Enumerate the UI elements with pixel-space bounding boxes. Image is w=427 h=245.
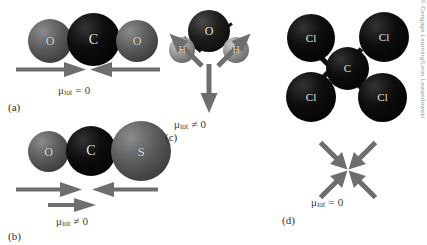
panel-b-carbonyl-sulfide: O C S — [0, 120, 180, 245]
atom-oxygen-left: O — [28, 19, 72, 63]
atom-carbon-center: C — [66, 126, 116, 176]
atom-chlorine-top-left: Cl — [287, 14, 335, 62]
atom-chlorine-bottom-left: Cl — [286, 72, 336, 122]
mu-caption-b: μtot ≠ 0 — [56, 215, 88, 228]
panel-a-carbon-dioxide: O C O μtot = 0 (a) — [0, 0, 175, 120]
atom-chlorine-bottom-right: Cl — [358, 73, 407, 122]
copyright-credit: © Cengage Learning/Leon Lewandowski — [420, 0, 427, 118]
mu-caption-d: μtot = 0 — [311, 196, 344, 209]
panel-d-carbon-tetrachloride: Cl Cl C Cl Cl — [270, 0, 421, 245]
atom-oxygen-right: O — [116, 20, 158, 62]
atom-oxygen-left: O — [28, 131, 69, 172]
panel-label-c: (c) — [165, 131, 177, 143]
mu-caption-a: μtot = 0 — [58, 84, 91, 97]
arrow-from-bottom-right — [343, 165, 382, 204]
panel-c-water: O H H — [155, 0, 270, 145]
dipole-arrows-d — [298, 138, 398, 200]
dipole-arrows-c — [155, 62, 270, 120]
dipole-arrows-a — [14, 58, 164, 82]
panel-label-a: (a) — [8, 101, 20, 113]
arrow-down — [201, 64, 218, 113]
panel-label-b: (b) — [8, 230, 21, 242]
arrow-from-top-right — [343, 137, 382, 176]
arrow-from-top-left — [315, 137, 354, 176]
atom-chlorine-top-right: Cl — [359, 12, 409, 62]
resultant-arrow-b — [48, 196, 138, 216]
panel-label-d: (d) — [282, 214, 295, 226]
mu-caption-c: μtot ≠ 0 — [174, 118, 206, 131]
